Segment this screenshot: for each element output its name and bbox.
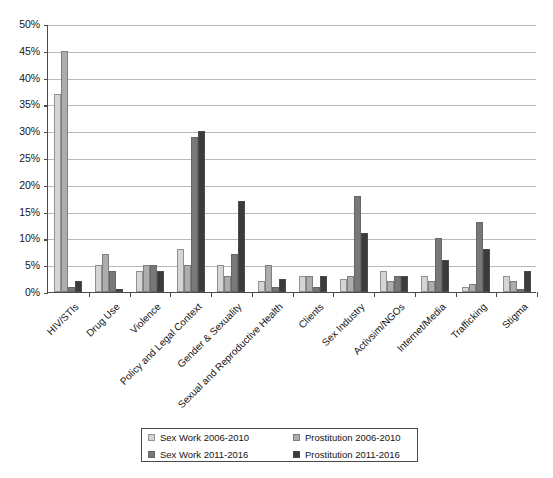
y-axis-tick-label: 5% [0,259,40,271]
bar [157,271,164,292]
bar-group [374,25,415,292]
bar [387,281,394,292]
y-axis-tick-label: 0% [0,286,40,298]
y-axis-tick-label: 40% [0,72,40,84]
bar [347,276,354,292]
bar [483,249,490,292]
bar-group [333,25,374,292]
bar [109,271,116,292]
bar [320,276,327,292]
y-axis-tick-label: 30% [0,125,40,137]
x-axis-tick [170,292,171,297]
bar [421,276,428,292]
y-axis-tick-label: 35% [0,98,40,110]
bar [116,289,123,292]
bar [184,265,191,292]
bar [68,287,75,292]
bar [191,137,198,292]
bar [380,271,387,292]
bar [524,271,531,292]
y-axis-tick [44,293,48,294]
bar [272,287,279,292]
bar [143,265,150,292]
bar-group [89,25,130,292]
bar [462,287,469,292]
x-axis-tick [89,292,90,297]
bar [177,249,184,292]
legend-label: Sex Work 2011-2016 [160,449,248,460]
bar [340,279,347,292]
legend-item-3: Prostitution 2011-2016 [293,449,425,460]
bar [510,281,517,292]
bar-group [496,25,537,292]
x-axis-tick [374,292,375,297]
bar [136,271,143,292]
bar [54,94,61,292]
bar [95,265,102,292]
plot-area [47,25,536,293]
legend-swatch-icon [293,434,300,441]
x-axis-tick [456,292,457,297]
x-axis-tick [252,292,253,297]
x-axis-category-label: Stigma [380,301,529,450]
bar [299,276,306,292]
bar [428,281,435,292]
bar-group [293,25,334,292]
y-axis-tick-label: 50% [0,18,40,30]
bar [476,222,483,292]
bar [361,233,368,292]
bar [517,289,524,292]
x-axis-tick [537,292,538,297]
bar [224,276,231,292]
y-axis-tick-label: 15% [0,206,40,218]
bar [503,276,510,292]
bar [442,260,449,292]
bar [198,131,205,292]
legend-swatch-icon [293,451,300,458]
legend-swatch-icon [148,451,155,458]
bar-group [211,25,252,292]
bar-group [48,25,89,292]
bar-chart: Sex Work 2006-2010 Prostitution 2006-201… [0,0,553,478]
y-axis-tick-label: 25% [0,152,40,164]
x-axis-tick [333,292,334,297]
x-axis-tick [211,292,212,297]
x-axis-tick [130,292,131,297]
legend-label: Prostitution 2011-2016 [305,449,400,460]
y-axis-tick-label: 45% [0,45,40,57]
bar [217,265,224,292]
x-axis-tick [496,292,497,297]
bar [258,281,265,292]
x-axis-tick [293,292,294,297]
x-axis-tick [415,292,416,297]
bar [469,284,476,292]
bar-group [252,25,293,292]
bar [61,51,68,292]
bar [313,287,320,292]
bar [394,276,401,292]
bar-group [456,25,497,292]
bar [238,201,245,292]
bar [265,265,272,292]
y-axis-tick-label: 10% [0,232,40,244]
bar-group [170,25,211,292]
bar [435,238,442,292]
bar [401,276,408,292]
bar [354,196,361,292]
bar [75,281,82,292]
bar [306,276,313,292]
legend-item-2: Sex Work 2011-2016 [148,449,293,460]
bar [150,265,157,292]
y-axis-tick-label: 20% [0,179,40,191]
bar [279,279,286,292]
bar-group [130,25,171,292]
bar [102,254,109,292]
bar-group [415,25,456,292]
bar [231,254,238,292]
